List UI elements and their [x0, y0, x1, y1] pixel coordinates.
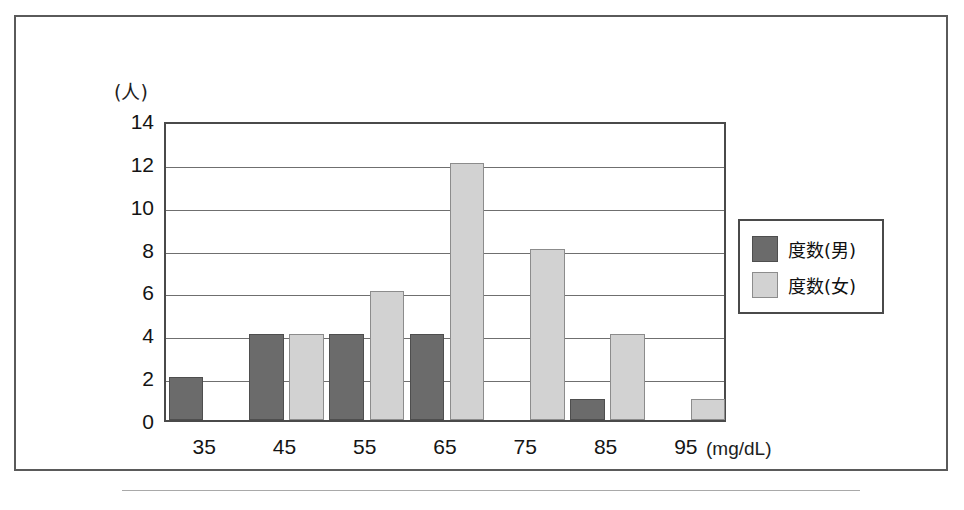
bar-female-95 [691, 399, 726, 420]
y-axis-tick-label: 12 [114, 154, 154, 175]
scan-artifact-text [180, 496, 800, 508]
y-axis-tick-label: 10 [114, 197, 154, 218]
legend-label: 度数(女) [788, 272, 856, 298]
y-axis-tick-label: 0 [114, 411, 154, 432]
bar-female-55 [370, 291, 405, 420]
legend-item: 度数(女) [752, 267, 882, 303]
gridline [166, 295, 724, 296]
bar-male-35 [169, 377, 204, 420]
bar-female-45 [289, 334, 324, 420]
y-axis-tick-label: 2 [114, 368, 154, 389]
legend-label: 度数(男) [788, 236, 856, 262]
bar-male-55 [329, 334, 364, 420]
bar-male-45 [249, 334, 284, 420]
plot-area [164, 122, 726, 422]
female-swatch-icon [752, 272, 778, 298]
gridline [166, 253, 724, 254]
x-axis-tick-label: 75 [485, 436, 565, 457]
bar-female-75 [530, 249, 565, 420]
y-axis-unit-label: (人) [114, 77, 148, 104]
x-axis-tick-label: 85 [566, 436, 646, 457]
gridline [166, 210, 724, 211]
y-axis-tick-label: 14 [114, 111, 154, 132]
y-axis-tick-label: 8 [114, 240, 154, 261]
bar-female-65 [450, 163, 485, 420]
y-axis-tick-label: 4 [114, 325, 154, 346]
male-swatch-icon [752, 236, 778, 262]
bar-male-65 [410, 334, 445, 420]
x-axis-tick-label: 65 [405, 436, 485, 457]
bar-female-85 [610, 334, 645, 420]
x-axis-tick-label: 55 [325, 436, 405, 457]
x-axis-tick-label: 95 [646, 436, 726, 457]
gridline [166, 167, 724, 168]
x-axis-tick-label: 45 [244, 436, 324, 457]
chart-legend: 度数(男)度数(女) [738, 219, 884, 314]
bar-male-85 [570, 399, 605, 420]
figure-frame: (人) (mg/dL) 14121086420 35455565758595 度… [14, 15, 948, 471]
x-axis-tick-label: 35 [164, 436, 244, 457]
legend-item: 度数(男) [752, 231, 882, 267]
scan-artifact-line [122, 490, 860, 491]
y-axis-tick-label: 6 [114, 282, 154, 303]
